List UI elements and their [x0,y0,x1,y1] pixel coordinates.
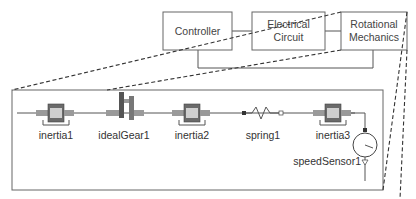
flange-b-icon [279,111,283,115]
component-label: inertia2 [175,129,210,141]
component-label: spring1 [246,129,281,141]
shaft-icon [64,110,74,116]
flange-a-icon [242,111,246,115]
component-label: idealGear1 [98,129,150,141]
block-rotational-label-line1: Rotational [350,18,397,30]
zoom-line-left-bottom [107,50,341,90]
diagram-canvas: Controller Electrical Circuit Rotational… [0,0,416,199]
block-controller[interactable]: Controller [163,12,232,50]
shaft-icon [134,110,144,116]
shaft-icon [172,110,184,116]
block-rotational-label-line2: Mechanics [349,31,399,43]
component-label: speedSensor1 [293,155,361,167]
component-label: inertia3 [316,129,351,141]
wire-controller-rotational [198,50,373,68]
block-rotational-mechanics[interactable]: Rotational Mechanics [341,12,407,50]
shaft-icon [106,110,120,116]
shaft-icon [36,110,48,116]
zoom-line-right-bottom [400,50,407,199]
shaft-icon [313,110,325,116]
block-controller-label: Controller [175,25,221,37]
flange-icon [363,128,367,132]
component-label: inertia1 [39,129,74,141]
inertia-body-highlight [186,108,198,118]
shaft-icon [341,110,351,116]
gear-wheel-icon [129,96,134,120]
shaft-icon [200,110,210,116]
block-electrical-label-line2: Circuit [274,31,304,43]
inertia-body-highlight [327,108,339,118]
inertia-body-highlight [50,108,62,118]
gear-wheel-icon [119,92,124,118]
